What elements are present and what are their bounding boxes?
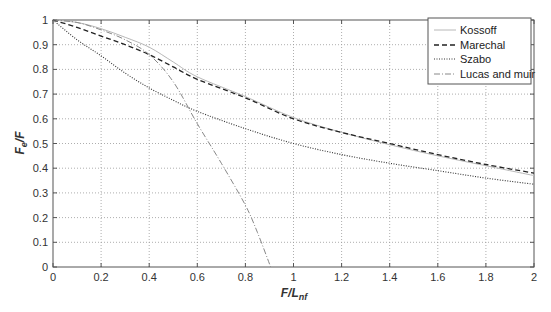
x-tick-label: 0.4: [142, 271, 157, 283]
x-tick-label: 1.2: [334, 271, 349, 283]
x-tick-label: 1.8: [478, 271, 493, 283]
x-axis-label: F/Lnf: [281, 286, 308, 302]
y-tick-label: 0.3: [33, 187, 48, 199]
y-tick-label: 0: [42, 261, 48, 273]
legend-label-lucas-and-muir: Lucas and muir: [460, 68, 536, 80]
y-tick-label: 0.4: [33, 162, 48, 174]
y-tick-label: 0.5: [33, 138, 48, 150]
legend: Kossoff Marechal Szabo Lucas and muir: [428, 18, 536, 84]
x-tick-label: 1: [290, 271, 296, 283]
y-tick-label: 0.9: [33, 39, 48, 51]
x-tick-label: 1.4: [382, 271, 397, 283]
y-tick-label: 0.8: [33, 63, 48, 75]
legend-label-szabo: Szabo: [460, 53, 491, 65]
y-tick-label: 0.2: [33, 212, 48, 224]
y-tick-label: 0.6: [33, 113, 48, 125]
x-tick-label: 0: [50, 271, 56, 283]
legend-label-kossoff: Kossoff: [460, 24, 497, 36]
y-tick-label: 1: [42, 14, 48, 26]
y-tick-label: 0.7: [33, 88, 48, 100]
x-tick-label: 2: [531, 271, 537, 283]
y-tick-label: 0.1: [33, 236, 48, 248]
x-tick-label: 1.6: [430, 271, 445, 283]
x-tick-label: 0.2: [93, 271, 108, 283]
legend-label-marechal: Marechal: [460, 39, 505, 51]
y-axis-label: Fe/F: [13, 131, 29, 155]
line-chart: 00.20.40.60.811.21.41.61.8200.10.20.30.4…: [0, 0, 551, 312]
x-tick-label: 0.6: [190, 271, 205, 283]
x-tick-label: 0.8: [238, 271, 253, 283]
